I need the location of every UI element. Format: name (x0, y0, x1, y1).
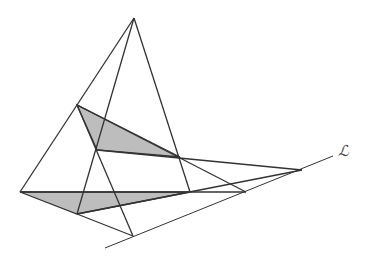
axis-label: ℒ (338, 142, 349, 160)
desargues-diagram (0, 0, 371, 261)
shaded-triangles (20, 105, 190, 214)
segment-B1-R (97, 150, 302, 170)
segment-O-C2 (134, 18, 190, 192)
lower-triangle (20, 192, 190, 214)
